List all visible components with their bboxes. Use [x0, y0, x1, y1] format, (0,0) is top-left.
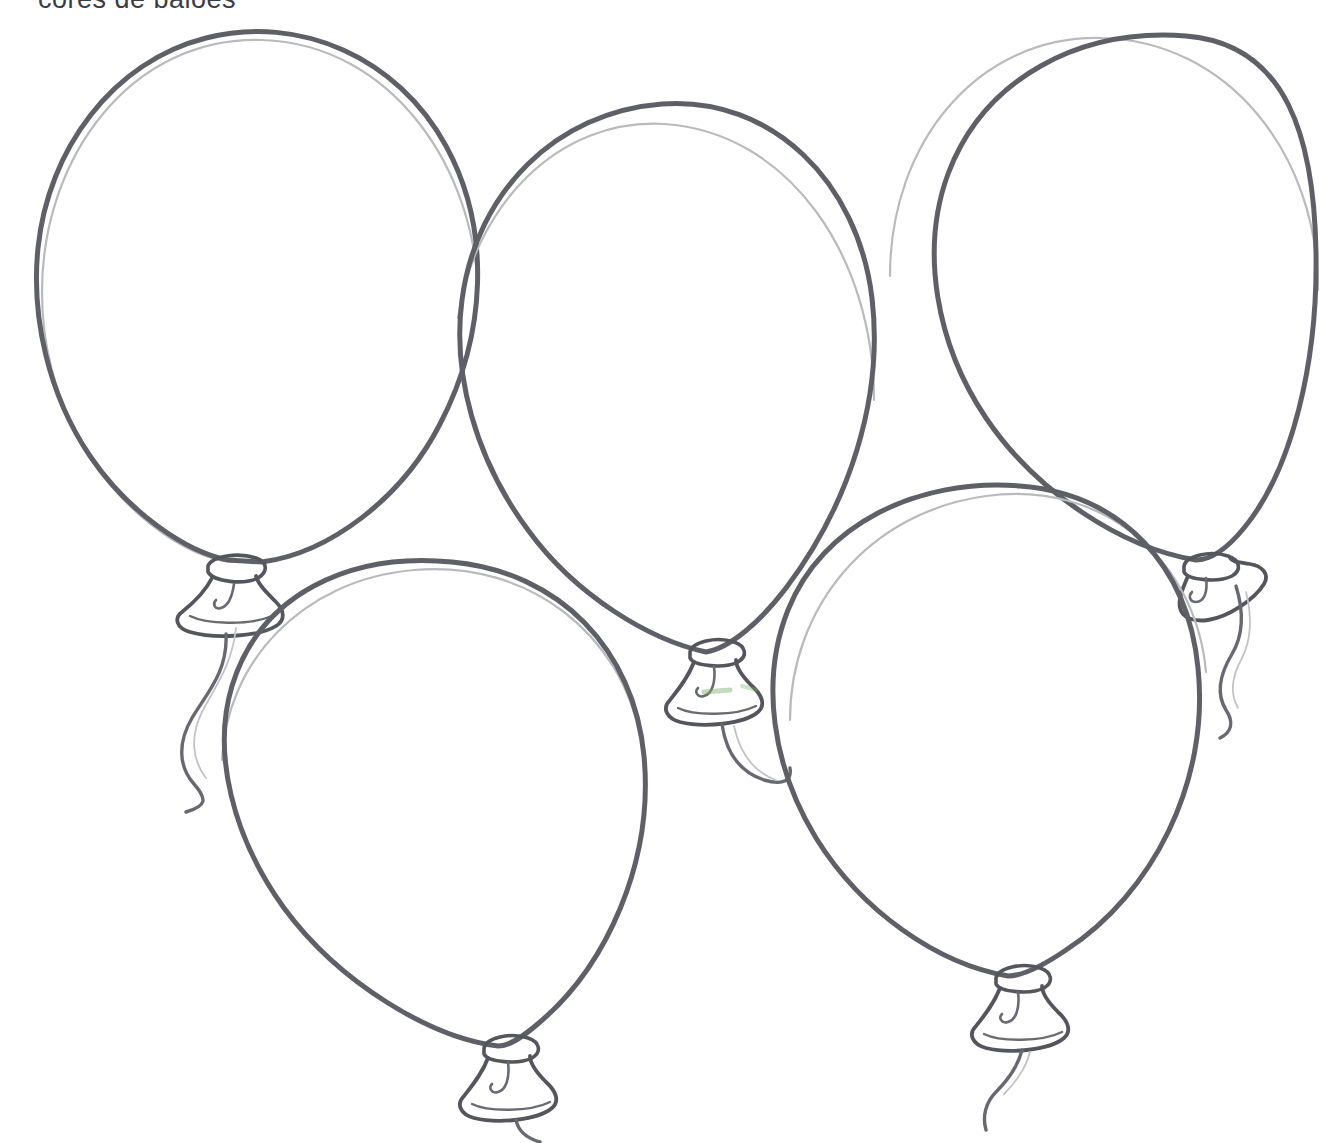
balloon-2 — [458, 103, 874, 782]
balloon-artwork — [0, 0, 1326, 1143]
balloon-4-outline-echo — [222, 569, 640, 760]
balloon-2-string-echo — [734, 726, 776, 780]
balloon-5-string-echo — [1004, 1052, 1030, 1094]
balloon-5-knot — [972, 966, 1068, 1051]
balloon-4-string — [516, 1120, 540, 1142]
balloon-5 — [773, 485, 1206, 1130]
balloon-3-knot — [1179, 554, 1266, 621]
balloon-1-string — [182, 634, 226, 812]
balloon-4-outline — [224, 561, 645, 1046]
balloon-2-green-smudge — [704, 690, 730, 692]
balloon-5-outline — [773, 485, 1200, 976]
balloon-4 — [222, 561, 645, 1142]
page-title: cores de balões — [38, 0, 236, 13]
balloon-4-knot — [460, 1036, 556, 1121]
balloon-3 — [890, 35, 1318, 738]
balloon-1-outline-echo — [42, 40, 478, 562]
balloon-1-outline — [36, 32, 477, 562]
balloon-5-string — [984, 1050, 1022, 1130]
coloring-page: cores de balões — [0, 0, 1326, 1143]
balloon-3-outline — [934, 35, 1316, 560]
balloon-1 — [36, 32, 478, 812]
